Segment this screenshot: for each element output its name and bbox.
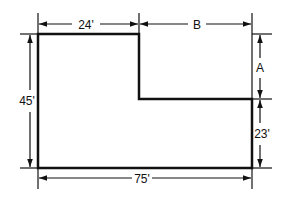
dimension-label-24: 24' — [78, 18, 94, 32]
dimension-label-23: 23' — [254, 127, 270, 141]
dimension-label-45: 45' — [19, 94, 35, 108]
floor-plan-diagram: 24' B 45' A 23' 75' — [0, 0, 286, 200]
dimension-label-a: A — [256, 61, 264, 75]
right-extension-lines — [252, 34, 272, 168]
dimension-label-75: 75' — [134, 172, 150, 186]
shape-outline — [38, 34, 252, 168]
top-extension-lines — [38, 13, 252, 99]
dimension-label-b: B — [193, 18, 201, 32]
